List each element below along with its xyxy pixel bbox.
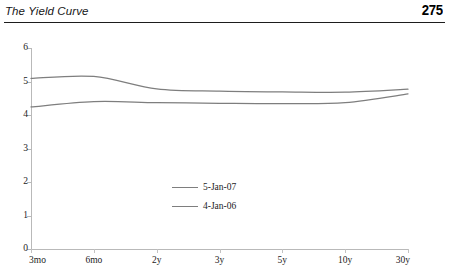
legend-label: 4-Jan-06 [203,200,236,213]
series-line-5-Jan-07 [31,76,408,92]
page-number: 275 [422,1,443,18]
series-layer [0,26,449,280]
page-root: The Yield Curve 275 0123456 3mo6mo2y3y5y… [0,0,449,280]
running-header: The Yield Curve 275 [0,0,449,26]
legend-swatch [172,206,198,207]
page-title: The Yield Curve [5,5,89,17]
series-line-4-Jan-06 [31,94,408,107]
legend-label: 5-Jan-07 [203,181,236,194]
legend-swatch [172,187,198,188]
yield-curve-chart: 0123456 3mo6mo2y3y5y10y30y 5-Jan-074-Jan… [0,26,449,280]
header-divider [4,22,445,23]
